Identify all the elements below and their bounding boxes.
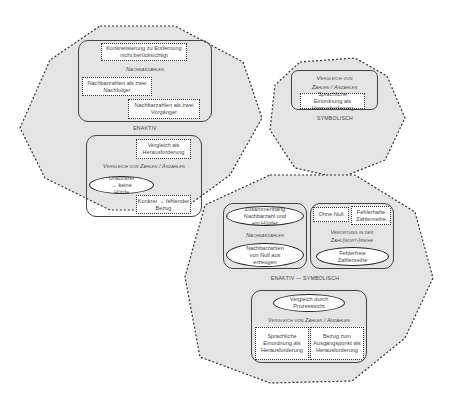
enaktiv-nachbarzahlen-item: Konkretisierung zu Entfernung nicht berü… xyxy=(101,43,187,61)
region-label-enaktiv: ENAKTIV xyxy=(110,125,180,131)
symbolisch-vergleich-title-2: Zahlen / Anzahlen xyxy=(291,84,378,90)
es-verortung-item: Ohne Null xyxy=(313,207,349,222)
enaktiv-vergleich-item: Vergleich als Herausforderung xyxy=(136,139,191,159)
region-label-enaktiv-symbolisch: ENAKTIV — SYMBOLISCH xyxy=(250,275,360,281)
es-vergleich-item: Bezug zum Ausgangspunkt als Herausforder… xyxy=(310,327,364,360)
es-verortung-title-2: Zahl(wort-)reihe xyxy=(310,237,394,243)
es-nachbarzahlen-ellipse: Zusammenhang Nachbarzahl und ein Hüpfer xyxy=(226,206,304,226)
es-nachbarzahlen-title: Nachbarzahlen xyxy=(223,232,307,238)
region-outlines xyxy=(0,0,452,397)
region-label-symbolisch: SYMBOLISCH xyxy=(300,115,370,121)
enaktiv-nachbarzahlen-item: Nachbarzahlen als zwei Nachfolger xyxy=(82,77,152,96)
enaktiv-vergleich-item: Konkret → fehlender Bezug xyxy=(136,195,191,214)
es-verortung-item: Fehlerhafte Zahlenreihe xyxy=(351,206,391,225)
es-vergleich-title: Vergleich von Zahlen / Anzahlen xyxy=(251,317,367,323)
symbolisch-vergleich-item: Sprachliche Einordnung als Herausforderu… xyxy=(300,93,365,109)
enaktiv-nachbarzahlen-title: Nachbarzahlen xyxy=(78,66,212,72)
es-vergleich-item: Sprachliche Einordnung als Herausforderu… xyxy=(255,327,309,360)
enaktiv-vergleich-ellipse: Unkonkret → keine Hürde xyxy=(89,176,154,194)
enaktiv-nachbarzahlen-item: Nachbarzahlen als zwei Vorgänger xyxy=(128,99,200,119)
enaktiv-vergleich-title: Vergleich von Zahlen / Anzahlen xyxy=(86,163,202,169)
es-verortung-ellipse: Fehlerfreie Zahlenreihe xyxy=(316,247,389,266)
es-verortung-title-1: Verortung in der xyxy=(310,229,394,235)
symbolisch-vergleich-title-1: Vergleich von xyxy=(291,75,378,81)
es-nachbarzahlen-ellipse: Nachbarzahlen von Null aus erzeugen xyxy=(226,243,304,267)
es-vergleich-ellipse: Vergleich durch Prozesssicht xyxy=(273,294,345,312)
